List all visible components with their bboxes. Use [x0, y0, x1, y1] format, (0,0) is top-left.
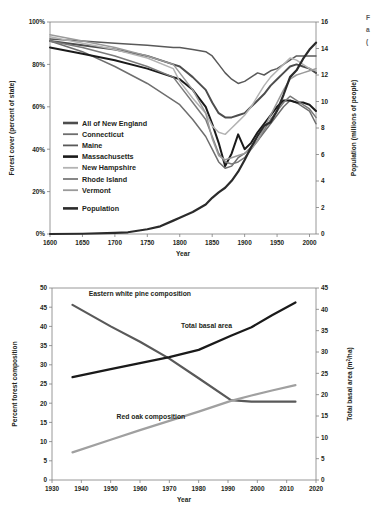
x-axis-tick-label: 1850 — [205, 239, 220, 246]
legend-label: Rhode Island — [82, 175, 127, 184]
y-axis-tick-label: 100% — [29, 18, 46, 25]
caption-edge-fragment: F — [366, 14, 370, 21]
y2-axis-tick-label: 0 — [321, 230, 325, 237]
legend-label: New Hampshire — [82, 163, 136, 172]
y-axis-tick-label: 40 — [40, 323, 48, 330]
y-axis-tick-label: 60% — [32, 103, 45, 110]
y-axis-tick-label: 80% — [32, 61, 45, 68]
caption-edge-fragment: a — [366, 26, 370, 33]
x-axis-tick-label: 1800 — [173, 239, 188, 246]
x-axis-tick-label: 1950 — [104, 485, 119, 492]
legend-label: Maine — [82, 141, 102, 150]
y-axis-tick-label: 10 — [40, 438, 48, 445]
series-annotation-label: Eastern white pine composition — [89, 290, 191, 298]
legend-item: Vermont — [63, 186, 111, 195]
legend-item: New Hampshire — [63, 163, 136, 172]
legend-item: Rhode Island — [63, 175, 127, 184]
legend-label: All of New England — [82, 119, 147, 128]
y2-axis-tick-label: 12 — [321, 71, 329, 78]
y2-axis-tick-label: 40 — [321, 306, 329, 313]
y2-axis-tick-label: 20 — [321, 391, 329, 398]
y2-axis-tick-label: 2 — [321, 204, 325, 211]
top-chart-forest-cover-and-population: 0%20%40%60%80%100%0246810121416160016501… — [0, 0, 372, 268]
legend-label: Population — [82, 204, 119, 213]
y2-axis-tick-label: 5 — [321, 455, 325, 462]
x-axis-title: Year — [176, 250, 190, 257]
y-axis-tick-label: 5 — [43, 457, 47, 464]
y2-axis-tick-label: 15 — [321, 412, 329, 419]
y2-axis-tick-label: 10 — [321, 434, 329, 441]
x-axis-tick-label: 2020 — [309, 485, 324, 492]
x-axis-tick-label: 2000 — [250, 485, 265, 492]
y2-axis-tick-label: 14 — [321, 45, 329, 52]
x-axis-tick-label: 1940 — [74, 485, 89, 492]
y-axis-tick-label: 0% — [36, 230, 46, 237]
y2-axis-tick-label: 25 — [321, 370, 329, 377]
legend-item: Connecticut — [63, 130, 124, 139]
x-axis-tick-label: 1930 — [45, 485, 60, 492]
plot-frame — [50, 22, 316, 234]
y-axis-title: Forest cover (percent of state) — [8, 81, 16, 176]
y2-axis-title: Total basal area (m2/ha) — [346, 347, 355, 421]
caption-edge-fragment: ( — [366, 38, 369, 46]
y-axis-title: Percent forest composition — [11, 341, 19, 426]
y2-axis-tick-label: 35 — [321, 327, 329, 334]
y-axis-tick-label: 15 — [40, 419, 48, 426]
y-axis-tick-label: 30 — [40, 361, 48, 368]
y-axis-tick-label: 0 — [43, 476, 47, 483]
y2-axis-tick-label: 16 — [321, 18, 329, 25]
x-axis-title: Year — [177, 496, 191, 503]
y2-axis-tick-label: 0 — [321, 476, 325, 483]
x-axis-tick-label: 1980 — [192, 485, 207, 492]
y2-axis-title: Population (millions of people) — [350, 80, 358, 176]
y-axis-tick-label: 20 — [40, 400, 48, 407]
legend-item: Massachusetts — [63, 152, 134, 161]
legend-item: Maine — [63, 141, 102, 150]
x-axis-tick-label: 1600 — [43, 239, 58, 246]
y-axis-tick-label: 45 — [40, 304, 48, 311]
y-axis-tick-label: 20% — [32, 188, 45, 195]
series-annotation-label: Red oak composition — [117, 413, 186, 421]
legend-item: Population — [63, 204, 119, 213]
y-axis-tick-label: 25 — [40, 380, 48, 387]
x-axis-tick-label: 1950 — [270, 239, 285, 246]
y2-axis-tick-label: 6 — [321, 151, 325, 158]
series-line — [73, 303, 296, 378]
x-axis-tick-label: 1700 — [108, 239, 123, 246]
bottom-chart-forest-composition-basal-area: 0510152025303540455005101520253035404519… — [0, 268, 372, 521]
y-axis-tick-label: 40% — [32, 146, 45, 153]
y2-axis-tick-label: 30 — [321, 348, 329, 355]
y-axis-tick-label: 35 — [40, 342, 48, 349]
x-axis-tick-label: 1650 — [75, 239, 90, 246]
y2-axis-tick-label: 4 — [321, 177, 325, 184]
x-axis-tick-label: 2010 — [280, 485, 295, 492]
x-axis-tick-label: 1960 — [133, 485, 148, 492]
x-axis-tick-label: 1990 — [221, 485, 236, 492]
x-axis-tick-label: 2000 — [302, 239, 317, 246]
legend-label: Connecticut — [82, 130, 124, 139]
y-axis-tick-label: 50 — [40, 284, 48, 291]
y2-axis-tick-label: 45 — [321, 284, 329, 291]
y2-axis-tick-label: 10 — [321, 98, 329, 105]
x-axis-tick-label: 1900 — [238, 239, 253, 246]
series-annotation-label: Total basal area — [181, 322, 232, 329]
legend-item: All of New England — [63, 119, 147, 128]
legend-label: Vermont — [82, 186, 111, 195]
legend-label: Massachusetts — [82, 152, 134, 161]
y2-axis-tick-label: 8 — [321, 124, 325, 131]
figure-container: 0%20%40%60%80%100%0246810121416160016501… — [0, 0, 372, 521]
x-axis-tick-label: 1970 — [162, 485, 177, 492]
x-axis-tick-label: 1750 — [140, 239, 155, 246]
